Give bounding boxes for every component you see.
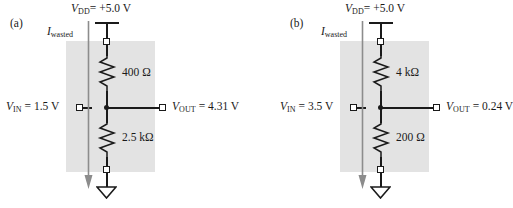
- wasted-current-arrow: [82, 21, 95, 191]
- output-symbol: V: [172, 100, 179, 112]
- input-value: 3.5 V: [308, 100, 333, 112]
- resistor-bottom-symbol: [97, 121, 117, 158]
- output-label-b: VOUT = 0.24 V: [446, 101, 513, 114]
- current-subscript: wasted: [51, 30, 73, 39]
- circuit-panel-b: (b) VDD= +5.0 V 4 kΩ VIN = 3.5 V VOUT = …: [254, 0, 509, 208]
- output-wire: [380, 107, 436, 109]
- supply-value: +5.0 V: [373, 2, 405, 14]
- wire-bottom-terminal-to-ground: [380, 172, 382, 187]
- output-wire: [106, 107, 162, 109]
- supply-symbol: V: [71, 2, 78, 14]
- current-subscript: wasted: [325, 30, 347, 39]
- output-label-a: VOUT = 4.31 V: [172, 101, 239, 114]
- ground-icon: [96, 186, 117, 199]
- supply-symbol: V: [345, 2, 352, 14]
- resistor-top-label: 400 Ω: [122, 66, 151, 78]
- supply-value: +5.0 V: [99, 2, 131, 14]
- output-subscript: OUT: [179, 105, 196, 114]
- output-terminal: [433, 104, 440, 111]
- input-label-a: VIN = 1.5 V: [6, 101, 59, 114]
- supply-label-b: VDD= +5.0 V: [345, 3, 405, 16]
- panel-label-b: (b): [290, 17, 303, 29]
- resistor-bottom-symbol: [371, 121, 391, 158]
- wasted-current-label-a: Iwasted: [47, 26, 73, 39]
- output-relation: =: [199, 100, 206, 112]
- input-label-b: VIN = 3.5 V: [280, 101, 333, 114]
- output-symbol: V: [446, 100, 453, 112]
- resistor-top-symbol: [97, 55, 117, 92]
- resistor-bottom-label: 2.5 kΩ: [122, 131, 154, 143]
- supply-label-a: VDD= +5.0 V: [71, 3, 131, 16]
- wire-rail-to-top-terminal: [106, 22, 108, 39]
- wasted-current-label-b: Iwasted: [321, 26, 347, 39]
- resistor-top-label: 4 kΩ: [396, 66, 419, 78]
- output-terminal: [159, 104, 166, 111]
- circuit-panel-a: (a) VDD= +5.0 V 400 Ω VIN = 1.5 V: [0, 0, 255, 208]
- resistor-bottom-label: 200 Ω: [396, 131, 425, 143]
- input-symbol: V: [280, 100, 287, 112]
- input-subscript: IN: [13, 105, 22, 114]
- supply-subscript: DD: [352, 7, 364, 16]
- supply-relation: =: [90, 2, 97, 14]
- wire-bottom-terminal-to-ground: [106, 172, 108, 187]
- input-relation: =: [25, 100, 32, 112]
- supply-relation: =: [364, 2, 371, 14]
- supply-subscript: DD: [78, 7, 90, 16]
- panel-label-a: (a): [10, 17, 23, 29]
- output-relation: =: [473, 100, 480, 112]
- output-value: 0.24 V: [482, 100, 513, 112]
- input-relation: =: [299, 100, 306, 112]
- wire-rail-to-top-terminal: [380, 22, 382, 39]
- input-subscript: IN: [287, 105, 296, 114]
- input-symbol: V: [6, 100, 13, 112]
- output-value: 4.31 V: [208, 100, 239, 112]
- input-value: 1.5 V: [34, 100, 59, 112]
- wasted-current-arrow: [356, 21, 369, 191]
- output-subscript: OUT: [453, 105, 470, 114]
- ground-icon: [370, 186, 391, 199]
- resistor-top-symbol: [371, 55, 391, 92]
